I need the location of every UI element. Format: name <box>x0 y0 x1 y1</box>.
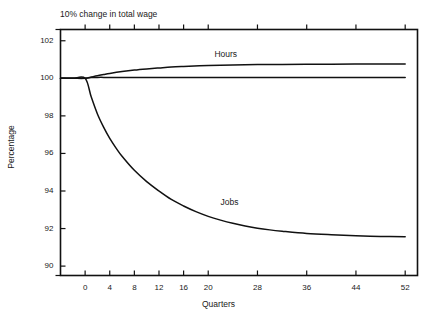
y-tick-label: 98 <box>28 111 54 120</box>
y-tick-label: 102 <box>28 36 54 45</box>
y-tick-label: 92 <box>28 224 54 233</box>
y-tick-label: 90 <box>28 261 54 270</box>
x-tick-label: 44 <box>343 283 369 292</box>
data-series <box>61 64 406 237</box>
x-tick-label: 52 <box>392 283 418 292</box>
x-tick-label: 36 <box>294 283 320 292</box>
y-tick-label: 96 <box>28 148 54 157</box>
axis-ticks <box>56 25 406 276</box>
y-tick-label: 94 <box>28 186 54 195</box>
x-tick-label: 28 <box>244 283 270 292</box>
x-tick-label: 20 <box>195 283 221 292</box>
x-tick-label: 16 <box>171 283 197 292</box>
axes-frame <box>61 30 418 276</box>
x-tick-label: 0 <box>72 283 98 292</box>
x-tick-label: 8 <box>121 283 147 292</box>
chart-figure: 10% change in total wage Percentage Quar… <box>0 0 436 321</box>
y-tick-label: 100 <box>28 73 54 82</box>
series-label: Hours <box>214 49 237 59</box>
x-tick-label: 4 <box>97 283 123 292</box>
series-label: Jobs <box>221 197 239 207</box>
x-tick-label: 12 <box>146 283 172 292</box>
